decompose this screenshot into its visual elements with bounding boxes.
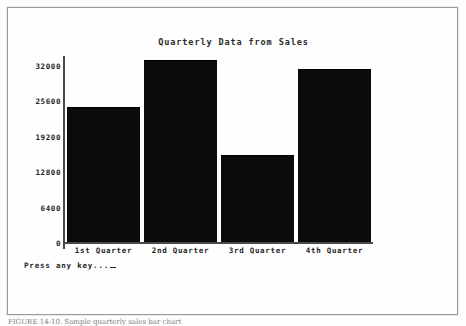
screen-capture-frame: Quarterly Data from Sales 06400128001920… [7,7,458,315]
plot-body [65,56,373,242]
bar [298,69,371,242]
text-cursor [110,260,116,268]
prompt-text: Press any key... [24,261,109,270]
press-any-key-prompt[interactable]: Press any key... [24,260,116,270]
bar-slot [67,56,140,242]
y-tick-label: 12800 [13,169,61,177]
y-tick-label: 0 [13,240,61,248]
bar [67,107,140,242]
bar [144,60,217,242]
x-axis-line [63,242,373,244]
x-category-label: 4th Quarter [296,246,373,255]
bar-chart: Quarterly Data from Sales 06400128001920… [8,8,459,316]
bar-slot [144,56,217,242]
x-axis-category-labels: 1st Quarter2nd Quarter3rd Quarter4th Qua… [65,246,377,260]
scanned-page: Quarterly Data from Sales 06400128001920… [0,0,466,326]
y-tick-label: 25600 [13,98,61,106]
y-tick-label: 19200 [13,134,61,142]
bar-slot [221,56,294,242]
figure-caption: FIGURE 14-10. Sample quarterly sales bar… [8,318,448,326]
chart-title: Quarterly Data from Sales [8,37,459,47]
y-tick-label: 6400 [13,205,61,213]
x-category-label: 3rd Quarter [219,246,296,255]
x-category-label: 2nd Quarter [142,246,219,255]
y-tick-label: 32000 [13,63,61,71]
bar [221,155,294,242]
x-category-label: 1st Quarter [65,246,142,255]
bar-slot [298,56,371,242]
